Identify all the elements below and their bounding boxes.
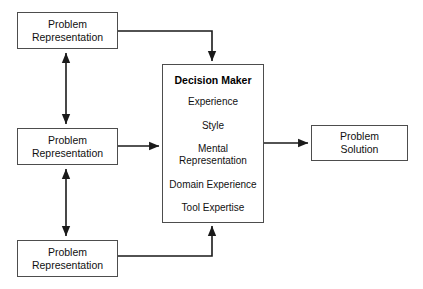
node-label-line2: Representation xyxy=(32,259,103,272)
node-label-line1: Problem xyxy=(340,130,379,143)
decision-maker-attribute: Style xyxy=(202,120,224,132)
edge-bottom-representation-to-decision-maker xyxy=(118,226,212,256)
node-label-line2: Solution xyxy=(341,143,379,156)
node-label-line2: Representation xyxy=(32,147,103,160)
node-problem-representation-middle: Problem Representation xyxy=(17,128,118,165)
node-label-line1: Problem xyxy=(48,134,87,147)
diagram-canvas: Problem Representation Problem Represent… xyxy=(0,0,423,289)
decision-maker-attribute: Mental Representation xyxy=(179,143,247,167)
node-label-line2: Representation xyxy=(32,31,103,44)
node-label-line1: Problem xyxy=(48,246,87,259)
decision-maker-attribute: Domain Experience xyxy=(169,179,256,191)
edge-top-representation-to-decision-maker xyxy=(118,31,212,61)
decision-maker-attribute-list: Experience Style Mental Representation D… xyxy=(167,96,259,216)
node-problem-representation-bottom: Problem Representation xyxy=(17,240,118,277)
decision-maker-attribute: Tool Expertise xyxy=(182,202,245,214)
decision-maker-attribute: Experience xyxy=(188,96,238,108)
node-problem-solution: Problem Solution xyxy=(311,125,408,161)
node-decision-maker: Decision Maker Experience Style Mental R… xyxy=(162,64,264,223)
node-problem-representation-top: Problem Representation xyxy=(17,12,118,49)
node-label-line1: Problem xyxy=(48,18,87,31)
decision-maker-title: Decision Maker xyxy=(174,74,251,87)
